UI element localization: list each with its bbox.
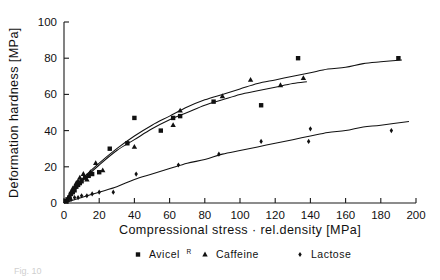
marker-avicel [125, 141, 129, 145]
legend-label-avicel: Avicel [149, 248, 180, 260]
marker-caffeine [100, 167, 105, 172]
marker-avicel [159, 128, 163, 132]
marker-lactose [134, 171, 137, 176]
x-tick-label: 180 [371, 209, 390, 221]
marker-lactose [85, 193, 88, 198]
x-tick-label: 100 [230, 209, 249, 221]
x-tick-label: 0 [61, 209, 67, 221]
y-axis-tick-labels: 020406080100 [38, 16, 57, 209]
legend-marker-caffeine [202, 252, 207, 257]
marker-caffeine [93, 160, 98, 165]
marker-avicel [171, 116, 175, 120]
marker-caffeine [132, 144, 137, 149]
y-tick-label: 80 [44, 52, 57, 64]
marker-avicel [259, 103, 263, 107]
y-axis-ticks [64, 22, 69, 203]
x-tick-label: 20 [93, 209, 106, 221]
x-axis-tick-labels: 020406080100120140160180200 [61, 209, 426, 221]
x-tick-label: 140 [301, 209, 320, 221]
y-tick-label: 100 [38, 16, 57, 28]
y-tick-label: 60 [44, 88, 57, 100]
fit-curve-avicel [64, 60, 402, 203]
marker-lactose [259, 139, 262, 144]
deformation-hardness-scatter-chart: Deformation hardness [MPa] 020406080100 … [0, 0, 440, 280]
fitted-curves [64, 60, 409, 203]
y-axis-title: Deformation hardness [MPa] [7, 27, 21, 198]
y-tick-label: 0 [51, 197, 57, 209]
marker-caffeine [248, 77, 253, 82]
marker-caffeine [278, 82, 283, 87]
marker-avicel [178, 114, 182, 118]
marker-caffeine [81, 171, 86, 176]
x-tick-label: 60 [163, 209, 176, 221]
legend-marker-avicel [136, 252, 140, 256]
marker-avicel [132, 116, 136, 120]
x-tick-label: 40 [128, 209, 141, 221]
marker-avicel [108, 147, 112, 151]
marker-lactose [90, 191, 93, 196]
legend-marker-lactose [298, 252, 301, 257]
legend-label-lactose: Lactose [311, 248, 351, 260]
marker-avicel [296, 56, 300, 60]
fit-curve-lactose [64, 122, 409, 203]
marker-lactose [112, 190, 115, 195]
marker-lactose [309, 126, 312, 131]
figure-caption: Fig. 10 [14, 266, 42, 276]
marker-avicel [211, 99, 215, 103]
marker-caffeine [170, 122, 175, 127]
legend-label-caffeine: Caffeine [216, 248, 259, 260]
marker-lactose [98, 190, 101, 195]
legend-registered-mark: R [186, 248, 191, 255]
x-tick-label: 120 [266, 209, 285, 221]
fit-curve-caffeine [64, 82, 307, 203]
chart-legend: AvicelRCaffeineLactose [136, 248, 351, 260]
marker-caffeine [301, 75, 306, 80]
marker-lactose [390, 128, 393, 133]
marker-avicel [396, 56, 400, 60]
x-axis-ticks [64, 198, 416, 203]
x-tick-label: 200 [406, 209, 425, 221]
x-axis-title: Compressional stress · rel.density [MPa] [119, 223, 361, 237]
marker-lactose [307, 139, 310, 144]
marker-lactose [177, 162, 180, 167]
figure-container: Deformation hardness [MPa] 020406080100 … [0, 0, 440, 280]
x-tick-label: 160 [336, 209, 355, 221]
x-tick-label: 80 [198, 209, 211, 221]
y-tick-label: 40 [44, 125, 57, 137]
y-tick-label: 20 [44, 161, 57, 173]
